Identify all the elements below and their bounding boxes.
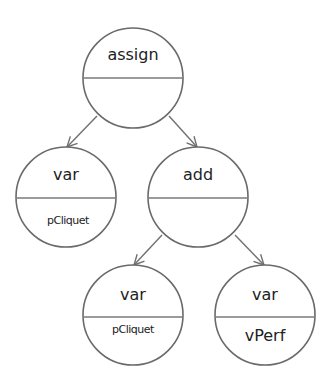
node-var-right: var vPerf	[215, 265, 315, 365]
node-value-label: pCliquet	[47, 214, 90, 227]
edge-assign-to-add	[169, 116, 197, 147]
node-circle	[148, 147, 248, 247]
node-assign: assign	[83, 28, 183, 128]
node-type-label: var	[252, 285, 278, 304]
node-circle	[83, 265, 183, 365]
node-circle	[16, 147, 116, 247]
node-circle	[215, 265, 315, 365]
node-var-mid: var pCliquet	[83, 265, 183, 365]
node-type-label: add	[183, 165, 213, 184]
edge-add-to-var-mid	[134, 235, 162, 265]
node-value-label: vPerf	[245, 326, 286, 345]
edge-assign-to-var-left	[67, 116, 97, 147]
node-type-label: assign	[107, 45, 158, 64]
node-add: add	[148, 147, 248, 247]
node-type-label: var	[53, 165, 79, 184]
edge-add-to-var-right	[235, 235, 264, 265]
node-value-label: pCliquet	[112, 323, 155, 336]
node-type-label: var	[120, 285, 146, 304]
node-var-left: var pCliquet	[16, 147, 116, 247]
expression-tree-diagram: assign var pCliquet add var pCliquet var…	[0, 0, 336, 384]
